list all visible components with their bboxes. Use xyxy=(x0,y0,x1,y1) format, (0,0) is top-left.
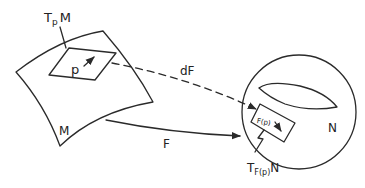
manifold-m-outline xyxy=(16,31,153,146)
manifold-n-arc xyxy=(259,83,337,108)
tangent-plane-tfpn xyxy=(251,104,295,152)
f-solid-arrow xyxy=(106,120,240,136)
manifold-m xyxy=(16,31,153,146)
label-manifold-m: M xyxy=(59,124,69,138)
manifold-n xyxy=(242,55,356,169)
tangent-plane-outline xyxy=(49,48,116,80)
tangent-vector-arrow xyxy=(84,57,94,66)
tfpn-leader-line xyxy=(255,130,264,152)
manifold-n-circle xyxy=(242,55,356,169)
differential-map-diagram: TpM p M F dF N F(p) TF(p)N xyxy=(0,0,365,188)
label-map-f: F xyxy=(163,137,170,151)
label-manifold-n: N xyxy=(328,121,337,135)
image-vector-arrow xyxy=(275,122,281,131)
label-tpm: TpM xyxy=(43,10,71,27)
label-tfpn: TF(p)N xyxy=(246,161,279,177)
label-differential-df: dF xyxy=(180,64,195,78)
label-point-p: p xyxy=(71,62,79,77)
